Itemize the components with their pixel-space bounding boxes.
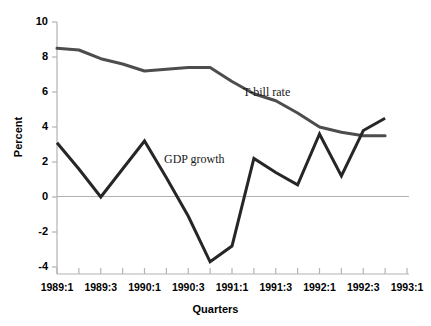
- series-line-t-bill-rate: [57, 48, 385, 136]
- series-label-gdp-growth: GDP growth: [164, 152, 225, 167]
- y-tick-label: 2: [14, 155, 48, 167]
- y-tick-label: 6: [14, 85, 48, 97]
- y-tick-label: -2: [14, 225, 48, 237]
- y-tick-marks: [52, 22, 57, 267]
- x-tick-marks: [57, 268, 407, 274]
- series-line-gdp-growth: [57, 118, 385, 261]
- x-tick-label: 1993:1: [377, 281, 431, 293]
- y-tick-label: 10: [14, 15, 48, 27]
- chart-container: Percent Quarters 1086420-2-4 1989:11989:…: [0, 0, 431, 326]
- y-tick-label: 8: [14, 50, 48, 62]
- series-label-t-bill-rate: T-bill rate: [243, 85, 290, 100]
- y-tick-label: 0: [14, 190, 48, 202]
- y-tick-label: -4: [14, 260, 48, 272]
- y-tick-label: 4: [14, 120, 48, 132]
- x-axis-title: Quarters: [0, 303, 431, 315]
